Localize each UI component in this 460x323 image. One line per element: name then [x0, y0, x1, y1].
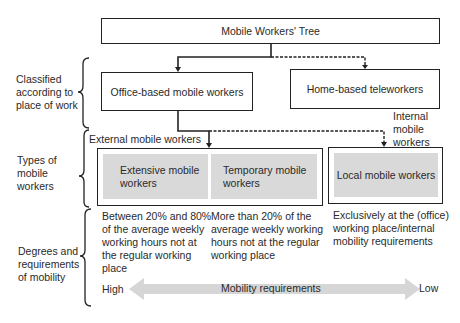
title-text: Mobile Workers' Tree	[221, 25, 320, 37]
brace-classified	[78, 58, 89, 128]
desc-temporary: More than 20% of the average weekly work…	[211, 210, 323, 262]
scale-high: High	[102, 283, 124, 296]
home-based-box: Home-based teleworkers	[290, 69, 440, 109]
desc-extensive: Between 20% and 80% of the average weekl…	[102, 210, 211, 275]
scale-low: Low	[419, 282, 438, 295]
label-degrees: Degrees and requirements of mobility	[18, 245, 79, 284]
connector-title-office	[178, 43, 271, 68]
desc-local: Exclusively at the (office) working plac…	[333, 209, 449, 248]
local-box: Local mobile workers	[334, 153, 438, 197]
connector-title-home	[271, 57, 365, 66]
label-classified: Classified according to place of work	[16, 73, 78, 112]
brace-types	[79, 130, 89, 207]
temporary-box: Temporary mobile workers	[211, 154, 317, 199]
title-box: Mobile Workers' Tree	[101, 18, 440, 44]
label-types: Types of mobile workers	[17, 154, 57, 193]
connector-office-internal	[209, 131, 384, 143]
extensive-box: Extensive mobile workers	[103, 154, 208, 199]
scale-label: Mobility requirements	[221, 282, 321, 295]
external-label: External mobile workers	[89, 133, 201, 146]
office-based-box: Office-based mobile workers	[101, 72, 253, 111]
brace-degrees	[80, 209, 91, 306]
internal-label: Internal mobile workers	[393, 110, 430, 149]
